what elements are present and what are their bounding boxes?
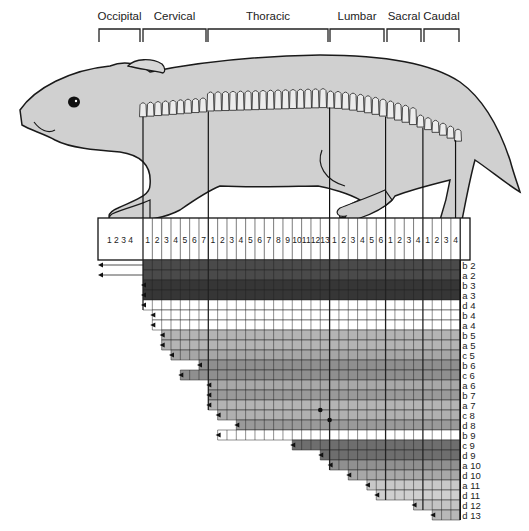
- vertebra: [335, 91, 342, 108]
- vertebra: [222, 92, 229, 111]
- vertebra-number: 6: [192, 235, 197, 245]
- vertebra: [417, 115, 424, 127]
- grid-row: [290, 440, 460, 450]
- vertebra-number: 3: [407, 235, 412, 245]
- vertebra-number: 6: [379, 235, 384, 245]
- region-bracket: [143, 29, 206, 42]
- vertebra: [290, 90, 297, 109]
- vertebra-number: 13: [320, 235, 330, 245]
- vertebra: [245, 91, 252, 110]
- vertebra: [282, 90, 289, 109]
- vertebra: [350, 93, 357, 110]
- vertebra: [402, 105, 409, 122]
- vertebra-number: 9: [285, 235, 290, 245]
- region-label: Caudal: [423, 10, 459, 22]
- vertebra-number: 3: [444, 235, 449, 245]
- vertebra-number: 5: [369, 235, 374, 245]
- grid-row: [346, 470, 460, 480]
- arrow-icon: [98, 273, 103, 278]
- vertebra-number: 1: [388, 235, 393, 245]
- vertebra: [365, 96, 372, 113]
- arrow-icon: [98, 263, 103, 268]
- vertebra: [170, 100, 177, 114]
- region-bracket: [330, 29, 384, 42]
- vertebral-segment-diagram: OccipitalCervicalThoracicLumbarSacralCau…: [0, 0, 529, 531]
- grid-row: [169, 350, 460, 360]
- vertebra: [342, 92, 349, 109]
- vertebra-number: 5: [183, 235, 188, 245]
- vertebra: [440, 123, 447, 135]
- region-brackets: OccipitalCervicalThoracicLumbarSacralCau…: [97, 10, 459, 42]
- vertebra: [267, 90, 274, 109]
- region-bracket: [387, 29, 421, 42]
- vertebra: [380, 99, 387, 116]
- grid-row: [216, 430, 461, 440]
- grid-row: [150, 310, 460, 320]
- grid-row: [197, 360, 460, 370]
- vertebra-number: 8: [276, 235, 281, 245]
- rodent-illustration: [20, 55, 520, 229]
- grid-row: [178, 370, 460, 380]
- vertebra: [155, 102, 162, 116]
- vertebra-number: 4: [239, 235, 244, 245]
- vertebra-number: 2: [435, 235, 440, 245]
- vertebra-number: 7: [267, 235, 272, 245]
- grid-row: [365, 480, 460, 490]
- grid-row: [206, 390, 460, 400]
- vertebra: [230, 91, 237, 110]
- vertebra-number: 7: [201, 235, 206, 245]
- grid-row: [98, 270, 460, 280]
- grid-row: [234, 420, 460, 430]
- vertebra-number: 3: [164, 235, 169, 245]
- vertebra: [357, 94, 364, 111]
- region-bracket: [208, 29, 328, 42]
- vertebra: [185, 99, 192, 113]
- segment-grid: [98, 260, 460, 520]
- animal-body: [20, 55, 520, 222]
- vertebra-number: 4: [173, 235, 178, 245]
- vertebra: [237, 91, 244, 110]
- vertebra: [177, 100, 184, 114]
- vertebra-number: 4: [453, 235, 458, 245]
- vertebra: [372, 97, 379, 114]
- vertebra: [275, 90, 282, 109]
- region-label: Cervical: [154, 10, 196, 22]
- grid-row: [328, 460, 461, 470]
- vertebra-number: 2: [397, 235, 402, 245]
- vertebra: [395, 103, 402, 120]
- vertebra-number: 1: [332, 235, 337, 245]
- vertebra: [320, 89, 327, 108]
- eye-highlight: [75, 100, 77, 102]
- region-label: Occipital: [97, 10, 141, 22]
- grid-row: [150, 320, 460, 330]
- vertebra: [140, 103, 147, 117]
- grid-row: [160, 340, 461, 350]
- vertebra: [162, 101, 169, 115]
- junction-dot: [327, 418, 332, 423]
- vertebra-number: 2: [155, 235, 160, 245]
- vertebra-number: 1: [425, 235, 430, 245]
- vertebra: [192, 99, 199, 113]
- grid-row: [141, 290, 460, 300]
- vertebra-number: 11: [302, 235, 311, 245]
- vertebra: [312, 89, 319, 108]
- vertebra: [387, 101, 394, 118]
- row-labels: b 2a 2b 3a 3d 4b 4a 4b 5a 5c 5b 6c 6a 6b…: [462, 260, 481, 521]
- vertebra: [447, 126, 454, 138]
- region-label: Sacral: [388, 10, 421, 22]
- vertebra-number: 4: [416, 235, 421, 245]
- vertebra: [410, 108, 417, 125]
- vertebra-number: 2: [220, 235, 225, 245]
- vertebra-number-strip: 1 2 3 4123456712345678910111213123456123…: [98, 218, 470, 260]
- grid-row: [141, 300, 460, 310]
- region-bracket: [99, 29, 140, 42]
- vertebra: [425, 118, 432, 130]
- junction-dot: [318, 408, 323, 413]
- grid-row: [206, 400, 460, 410]
- vertebra-number: 3: [351, 235, 356, 245]
- grid-row: [374, 490, 460, 500]
- vertebra-number: 10: [292, 235, 302, 245]
- grid-row: [412, 500, 461, 510]
- region-bracket: [424, 29, 459, 42]
- animal-eye: [68, 97, 80, 108]
